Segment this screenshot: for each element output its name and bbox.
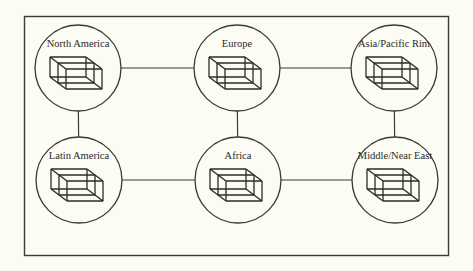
node-label: Middle/Near East <box>358 150 432 161</box>
node-asia-pacific-rim: Asia/Pacific Rim <box>351 25 437 111</box>
node-label: Europe <box>222 38 253 49</box>
node-label: North America <box>47 38 110 49</box>
node-africa: Africa <box>195 137 281 223</box>
node-middle-near-east: Middle/Near East <box>352 137 438 223</box>
region-network-diagram: North AmericaEuropeAsia/Pacific RimLatin… <box>0 0 473 271</box>
node-label: Latin America <box>49 150 110 161</box>
node-label: Asia/Pacific Rim <box>358 38 430 49</box>
nodes-group: North AmericaEuropeAsia/Pacific RimLatin… <box>35 25 438 223</box>
node-europe: Europe <box>194 25 280 111</box>
node-label: Africa <box>225 150 252 161</box>
node-latin-america: Latin America <box>36 137 122 223</box>
node-north-america: North America <box>35 25 121 111</box>
